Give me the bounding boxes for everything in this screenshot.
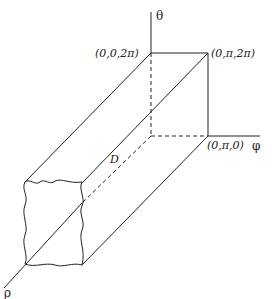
point-label-bottom-right: (0,π,0) (207, 139, 244, 152)
rho-label: ρ (4, 286, 11, 299)
point-label-top-back: (0,0,2π) (95, 47, 139, 60)
point-label-top-right: (0,π,2π) (211, 47, 255, 60)
bottom-right-long-edge (82, 136, 208, 265)
hidden-diagonal (82, 136, 151, 203)
region-label: D (109, 153, 119, 166)
coordinate-diagram: θ φ ρ (0,0,2π) (0,π,2π) (0,π,0) D (0, 0, 272, 299)
wavy-cross-section (24, 180, 83, 266)
phi-label: φ (252, 139, 260, 153)
theta-label: θ (156, 9, 163, 23)
top-right-long-edge (82, 53, 208, 183)
rho-axis (4, 203, 82, 288)
top-left-long-edge (25, 53, 151, 182)
